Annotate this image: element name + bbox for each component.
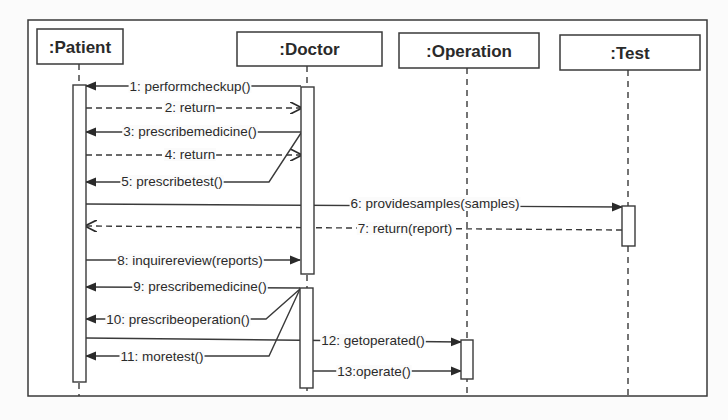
message-label-1: 1: performcheckup() (130, 79, 251, 94)
message-label-11: 11: moretest() (120, 349, 203, 364)
participant-operation: :Operation (399, 33, 539, 68)
message-label-9: 9: prescribemedicine() (133, 279, 267, 294)
message-label-4: 4: return (165, 147, 215, 162)
activation-bar-operation (461, 340, 473, 379)
participant-label: :Operation (426, 42, 512, 61)
message-label-3: 3: prescribemedicine() (123, 124, 257, 139)
sequence-diagram: 1: performcheckup()2: return3: prescribe… (0, 0, 728, 420)
activation-bar-patient (73, 85, 86, 382)
message-label-8: 8: inquirereview(reports) (117, 253, 263, 268)
message-label-5: 5: prescribetest() (121, 174, 222, 189)
activation-bar-doctor (301, 87, 314, 274)
participant-label: :Test (610, 44, 650, 63)
participant-test: :Test (560, 35, 700, 70)
participant-doctor: :Doctor (237, 32, 382, 66)
message-label-10: 10: prescribeoperation() (106, 312, 249, 327)
message-label-2: 2: return (165, 100, 215, 115)
activation-bar-test (622, 206, 635, 246)
message-label-7: 7: return(report) (358, 221, 453, 236)
participant-label: :Patient (49, 38, 112, 57)
activation-bar-doctor (300, 288, 313, 388)
participant-label: :Doctor (279, 40, 340, 59)
sequence-diagram-canvas: 1: performcheckup()2: return3: prescribe… (0, 0, 728, 420)
message-label-12: 12: getoperated() (321, 333, 425, 348)
message-label-6: 6: providesamples(samples) (351, 196, 520, 211)
message-label-13: 13:operate() (337, 364, 411, 379)
participant-patient: :Patient (37, 29, 123, 64)
